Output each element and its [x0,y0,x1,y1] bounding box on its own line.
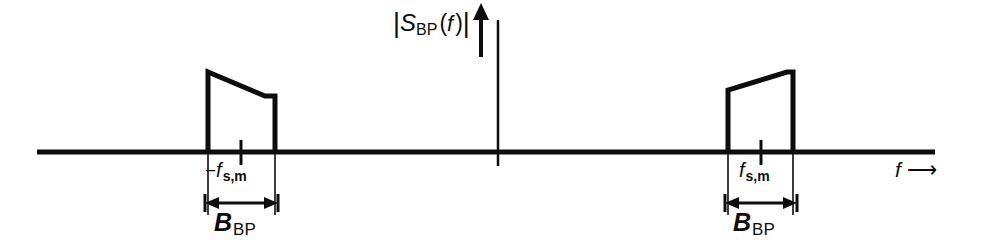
right-arrow-icon: ⟶ [907,158,937,181]
spectrum-magnitude-label: |SBP(f)| [393,9,470,36]
axis-variable: f [895,158,901,181]
pos-freq-variable: f [739,159,745,181]
frequency-axis-label: f⟶ [895,159,937,180]
figure-root: |SBP(f)| −fs,m fs,m BBP BBP f⟶ [0,0,1001,246]
neg-bandwidth-variable: B [214,208,232,236]
spectrum-variable: f [447,11,453,36]
paren-open: ( [439,10,447,36]
pos-freq-subscript: s,m [746,168,770,184]
abs-bar-left: | [393,8,400,38]
spectrum-symbol: S [400,9,416,36]
negative-bandwidth-label: BBP [214,210,255,235]
abs-bar-right: | [463,8,470,38]
up-arrow-icon [473,3,489,57]
minus-sign: − [205,160,216,181]
spectrum-subscript: BP [416,21,437,38]
neg-freq-subscript: s,m [223,168,247,184]
negative-center-frequency-label: −fs,m [205,160,246,180]
neg-freq-variable: f [216,159,222,181]
spectrum-diagram-canvas [0,0,1001,246]
positive-bandwidth-label: BBP [733,210,774,235]
neg-bandwidth-subscript: BP [233,220,256,239]
pos-bandwidth-variable: B [733,208,751,236]
paren-close: ) [455,10,463,36]
positive-center-frequency-label: fs,m [739,160,769,180]
pos-bandwidth-subscript: BP [752,220,775,239]
